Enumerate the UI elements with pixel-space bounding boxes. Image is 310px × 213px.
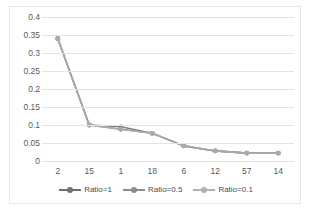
y-axis-tick-label: 0.35 (14, 31, 40, 40)
gridline (42, 143, 294, 144)
legend-marker-icon (123, 185, 145, 194)
x-axis-tick-label: 57 (242, 167, 251, 176)
legend-item-1[interactable]: Ratio=1 (59, 185, 112, 194)
data-point (244, 151, 249, 156)
legend-item-label: Ratio=0.5 (148, 186, 182, 194)
legend-item-label: Ratio=1 (84, 186, 112, 194)
y-axis-tick-label: 0.1 (14, 121, 40, 130)
chart-container: 00.050.10.150.20.250.30.350.4 2151186125… (9, 6, 301, 204)
gridline (42, 161, 294, 162)
legend-item-label: Ratio=0.1 (218, 186, 252, 194)
legend-item-2[interactable]: Ratio=0.5 (123, 185, 182, 194)
gridline (42, 71, 294, 72)
gridline (42, 107, 294, 108)
y-axis-tick-label: 0 (14, 157, 40, 166)
y-axis-tick-label: 0.4 (14, 13, 40, 22)
legend-item-3[interactable]: Ratio=0.1 (193, 185, 252, 194)
y-axis-tick-label: 0.3 (14, 49, 40, 58)
y-axis-tick-label: 0.15 (14, 103, 40, 112)
series-3 (55, 36, 280, 155)
y-axis-tick-label: 0.05 (14, 139, 40, 148)
series-line (58, 39, 279, 153)
plot-area (42, 17, 294, 161)
x-axis-tick-label: 14 (274, 167, 283, 176)
chart-plot-wrapper: 00.050.10.150.20.250.30.350.4 2151186125… (10, 7, 302, 205)
x-axis-tick-label: 12 (211, 167, 220, 176)
y-axis-tick-label: 0.25 (14, 67, 40, 76)
series-1 (55, 36, 280, 155)
gridline (42, 89, 294, 90)
data-point (150, 131, 155, 136)
x-axis-tick-label: 18 (148, 167, 157, 176)
x-axis-tick-label: 6 (181, 167, 186, 176)
x-axis-tick-labels: 2151186125714 (42, 167, 294, 181)
gridline (42, 35, 294, 36)
gridline (42, 53, 294, 54)
series-line (58, 39, 279, 153)
data-point (276, 151, 281, 156)
data-point (118, 127, 123, 132)
legend-marker-icon (59, 185, 81, 194)
y-axis-tick-labels: 00.050.10.150.20.250.30.350.4 (14, 7, 40, 205)
chart-legend: Ratio=1Ratio=0.5Ratio=0.1 (10, 185, 302, 194)
x-axis-tick-label: 15 (85, 167, 94, 176)
data-point (181, 143, 186, 148)
series-2 (55, 36, 280, 155)
x-axis-tick-label: 1 (118, 167, 123, 176)
series-line (58, 39, 279, 153)
gridline (42, 125, 294, 126)
legend-marker-icon (193, 185, 215, 194)
data-point (55, 36, 60, 41)
data-point (213, 149, 218, 154)
gridline (42, 17, 294, 18)
y-axis-tick-label: 0.2 (14, 85, 40, 94)
x-axis-tick-label: 2 (55, 167, 60, 176)
